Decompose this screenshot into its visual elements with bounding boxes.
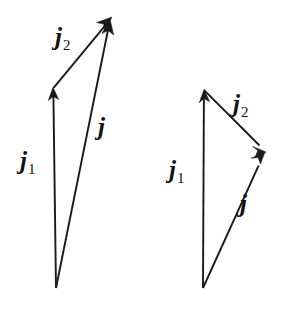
left-label-j1-symbol: j: [20, 147, 27, 174]
vector-canvas: [0, 0, 284, 309]
left-vector-j1-shaft: [53, 95, 56, 288]
right-label-j-symbol: j: [240, 190, 247, 217]
left-diagram: [48, 17, 113, 288]
left-vector-j: [56, 19, 114, 288]
left-label-j2: j2: [55, 24, 69, 49]
right-label-j2-subscript: 2: [241, 104, 249, 120]
left-label-j-symbol: j: [98, 113, 105, 140]
left-label-j1-subscript: 1: [28, 161, 36, 177]
right-label-j1-symbol: j: [169, 156, 176, 183]
right-label-j2: j2: [233, 91, 247, 116]
left-label-j1: j1: [20, 148, 34, 173]
left-label-j: j: [98, 114, 105, 139]
right-label-j1: j1: [169, 157, 183, 182]
right-diagram: [199, 89, 266, 288]
right-label-j: j: [240, 191, 247, 216]
left-vector-j-shaft: [56, 27, 109, 288]
right-vector-j1: [199, 89, 209, 288]
left-vector-j1: [48, 87, 58, 288]
right-label-j1-subscript: 1: [177, 170, 185, 186]
vector-figure: j2 j1 j j2 j1 j: [0, 0, 284, 309]
right-label-j2-symbol: j: [233, 90, 240, 117]
right-vector-j-shaft: [203, 166, 259, 288]
right-vector-j: [203, 152, 265, 288]
left-label-j2-symbol: j: [55, 23, 62, 50]
left-label-j2-subscript: 2: [63, 37, 71, 53]
right-vector-j1-shaft: [203, 97, 204, 288]
